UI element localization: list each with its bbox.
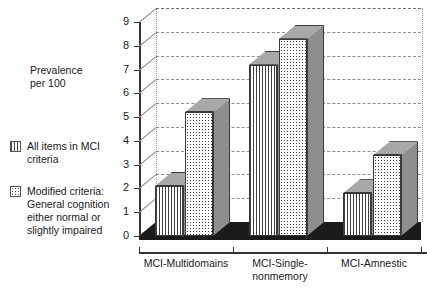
y-axis-tick [134,117,139,118]
y-axis-title: Prevalence per 100 [30,64,83,90]
depth-connector [139,127,157,142]
depth-connector [139,79,157,94]
y-axis-tick [134,236,139,237]
y-axis-tick-label: 6 [115,86,129,98]
depth-connector [139,8,157,23]
depth-connector [139,175,157,190]
depth-connector [139,32,157,47]
legend-swatch-dots-icon [10,186,21,197]
y-axis-tick-label: 5 [115,110,129,122]
bar-1-series-2 [185,98,230,236]
x-axis-tick [421,247,422,253]
x-axis-tick [327,247,328,253]
bar-front-face [279,39,307,236]
depth-connector [139,103,157,118]
bar-3-series-2 [373,141,418,236]
plot-area: 0123456789MCI-MultidomainsMCI-Single- no… [118,8,423,283]
y-axis-tick [134,188,139,189]
y-axis-tick [134,212,139,213]
bar-side-face [307,25,324,236]
y-axis-line [139,22,141,236]
y-axis-tick [134,141,139,142]
bar-2-series-2 [279,25,324,236]
bar-front-face [373,155,401,236]
bar-front-face [343,193,371,236]
chart-root: Prevalence per 100 All items in MCI crit… [0,0,427,291]
y-axis-tick-label: 2 [115,181,129,193]
y-axis-tick [134,22,139,23]
y-axis-tick-label: 0 [115,229,129,241]
legend-label: Modified criteria: General cognition eit… [27,185,109,237]
y-axis-tick-label: 3 [115,158,129,170]
gridline [156,8,421,9]
legend-label: All items in MCI criteria [27,140,100,166]
y-axis-tick-label: 7 [115,63,129,75]
bar-front-face [185,112,213,236]
y-axis-tick-label: 8 [115,39,129,51]
bar-front-face [155,186,183,236]
depth-connector [139,56,157,71]
x-axis-tick [139,247,140,253]
y-axis-tick [134,46,139,47]
y-axis-tick [134,93,139,94]
bar-front-face [249,65,277,236]
x-axis-tick [233,247,234,253]
y-axis-tick-label: 1 [115,205,129,217]
legend-swatch-vertical-stripes-icon [10,141,21,152]
y-axis-tick [134,165,139,166]
x-axis-category-label: MCI-Amnestic [318,257,427,270]
bar-side-face [401,141,418,236]
y-axis-tick-label: 4 [115,134,129,146]
x-axis-line [139,252,427,254]
bar-side-face [213,98,230,236]
y-axis-tick [134,70,139,71]
depth-connector [139,198,157,213]
depth-connector [139,151,157,166]
y-axis-tick-label: 9 [115,15,129,27]
